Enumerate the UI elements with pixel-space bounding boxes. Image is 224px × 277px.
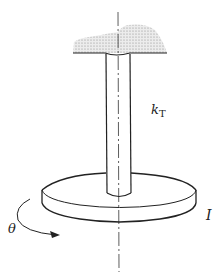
torsional-pendulum-diagram: kT I θ	[0, 0, 224, 277]
inertia-label: I	[205, 207, 212, 223]
rotation-arrow-icon	[17, 199, 60, 238]
stiffness-label: kT	[151, 102, 166, 119]
angle-label: θ	[8, 221, 16, 236]
ceiling-support	[73, 25, 167, 55]
